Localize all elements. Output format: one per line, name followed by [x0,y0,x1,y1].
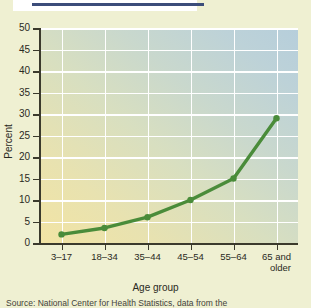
x-axis-tick [62,244,64,250]
y-axis-tick [33,136,39,138]
header-band [13,0,197,11]
y-axis-tick-label: 50 [6,23,30,33]
y-axis-tick [33,93,39,95]
gridline-horizontal [40,200,298,202]
y-axis-tick [33,71,39,73]
y-axis-tick-label: 0 [6,238,30,248]
gridline-horizontal [40,114,298,116]
y-axis-tick-label: 10 [6,195,30,205]
gridline-vertical [105,28,107,243]
gridline-horizontal [40,93,298,95]
gridline-vertical [191,28,193,243]
gridline-horizontal [40,71,298,73]
y-axis-line [39,28,41,244]
gridline-horizontal [40,179,298,181]
x-axis-tick [105,244,107,250]
gridline-horizontal [40,136,298,138]
x-axis-title: Age group [0,282,311,293]
y-axis-tick-label: 45 [6,45,30,55]
y-axis-tick [33,243,39,245]
header-rule [32,3,204,6]
y-axis-tick [33,179,39,181]
y-axis-tick [33,114,39,116]
gridline-horizontal [40,28,298,30]
source-note: Source: National Center for Health Stati… [6,298,311,308]
gridline-vertical [277,28,279,243]
gridline-horizontal [40,157,298,159]
x-axis-tick-label: 45–54 [177,252,203,263]
x-axis-tick [277,244,279,250]
y-axis-tick-label: 15 [6,174,30,184]
y-axis-tick-label: 40 [6,66,30,76]
gridline-vertical [148,28,150,243]
x-axis-tick-label: 35–44 [134,252,160,263]
y-axis-tick-label: 35 [6,88,30,98]
plot-area [40,28,298,243]
y-axis-tick [33,200,39,202]
y-axis-tick [33,50,39,52]
x-axis-tick [148,244,150,250]
y-axis-title: Percent [3,112,14,172]
x-axis-tick-label: 3–17 [51,252,72,263]
gridline-horizontal [40,50,298,52]
x-axis-line [39,243,298,245]
y-axis-tick [33,222,39,224]
y-axis-tick [33,157,39,159]
x-axis-tick-label: 18–34 [91,252,117,263]
x-axis-tick [191,244,193,250]
gridline-vertical [234,28,236,243]
y-axis-tick [33,28,39,30]
x-axis-tick-label: 55–64 [220,252,246,263]
gridline-vertical [62,28,64,243]
gridline-horizontal [40,222,298,224]
y-axis-tick-label: 5 [6,217,30,227]
x-axis-tick-label: 65 andolder [262,252,291,273]
x-axis-tick [234,244,236,250]
